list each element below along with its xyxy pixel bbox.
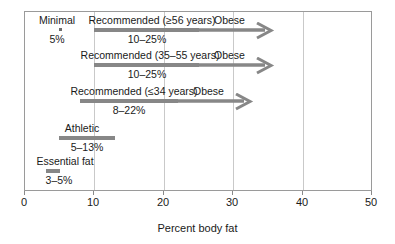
row-recommended-35-55: Recommended (35–55 years) 10–25% Obese <box>25 49 371 85</box>
x-tick-label-50: 50 <box>365 196 377 209</box>
body-fat-percentage-chart: Minimal 5% Recommended (≥56 years) 10–25… <box>0 0 395 244</box>
x-tick-40 <box>302 191 303 195</box>
x-tick-label-0: 0 <box>21 196 27 209</box>
x-tick-30 <box>232 191 233 195</box>
minimal-value-label: 5% <box>31 34 83 45</box>
bar-essential-fat <box>46 169 60 173</box>
obese-arrow-row-1 <box>191 22 281 46</box>
row-label-essential-fat: Essential fat <box>17 156 113 167</box>
x-tick-10 <box>93 191 94 195</box>
row-recommended-34: Recommended (≤34 years) 8–22% Obese <box>25 85 371 121</box>
x-axis: 0 10 20 30 40 50 <box>0 191 395 211</box>
bar-recommended-56 <box>94 28 199 32</box>
x-tick-20 <box>163 191 164 195</box>
bar-recommended-34 <box>80 99 178 103</box>
row-athletic: Athletic 5–13% <box>25 122 371 158</box>
arrow-right-icon <box>170 93 260 113</box>
row-label-athletic: Athletic <box>34 123 130 134</box>
range-label-recommended-34: 8–22% <box>83 105 175 116</box>
row-recommended-56: Minimal 5% Recommended (≥56 years) 10–25… <box>25 14 371 50</box>
x-axis-title: Percent body fat <box>0 222 395 235</box>
arrow-right-icon <box>191 22 281 42</box>
minimal-point-marker <box>59 28 62 31</box>
row-essential-fat: Essential fat 3–5% <box>25 155 371 191</box>
x-tick-label-10: 10 <box>87 196 99 209</box>
arrow-right-icon <box>191 57 281 77</box>
obese-arrow-row-3 <box>170 93 260 117</box>
x-tick-50 <box>371 191 372 195</box>
x-tick-label-40: 40 <box>296 196 308 209</box>
x-tick-label-20: 20 <box>157 196 169 209</box>
range-label-essential-fat: 3–5% <box>11 175 107 186</box>
range-label-athletic: 5–13% <box>39 142 135 153</box>
range-label-recommended-35-55: 10–25% <box>99 69 195 80</box>
obese-arrow-row-2 <box>191 57 281 81</box>
plot-area: Minimal 5% Recommended (≥56 years) 10–25… <box>24 11 372 191</box>
x-tick-label-30: 30 <box>226 196 238 209</box>
bar-recommended-35-55 <box>94 63 199 67</box>
range-label-recommended-56: 10–25% <box>99 34 195 45</box>
bar-athletic <box>59 136 115 140</box>
x-tick-0 <box>24 191 25 195</box>
